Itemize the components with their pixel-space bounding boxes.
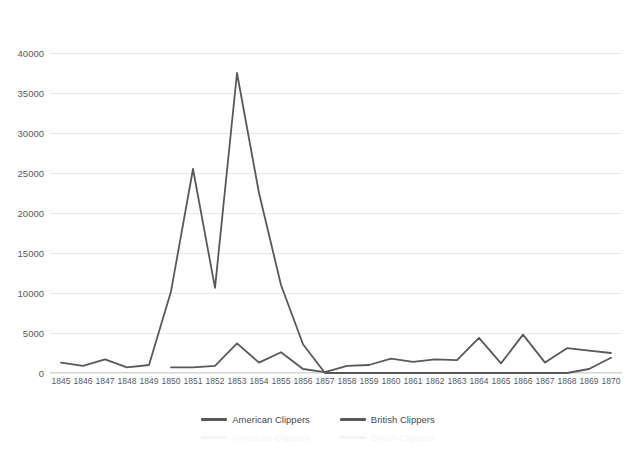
x-tick-label: 1853 <box>228 376 247 386</box>
legend-ghost-artifact: American Clippers British Clippers <box>0 432 636 443</box>
legend-item-british[interactable]: British Clippers <box>340 414 435 425</box>
series-line-british-clippers <box>171 335 611 373</box>
legend-label: American Clippers <box>232 432 310 443</box>
chart-legend: American Clippers British Clippers <box>0 414 636 425</box>
x-tick-label: 1862 <box>426 376 445 386</box>
legend-item-american[interactable]: American Clippers <box>201 414 310 425</box>
legend-ghost-item: American Clippers <box>201 432 310 443</box>
y-tick-label: 10000 <box>0 288 44 299</box>
legend-ghost-item: British Clippers <box>340 432 435 443</box>
x-tick-label: 1858 <box>338 376 357 386</box>
x-tick-label: 1869 <box>580 376 599 386</box>
y-tick-label: 35000 <box>0 88 44 99</box>
x-tick-label: 1865 <box>492 376 511 386</box>
x-tick-label: 1861 <box>404 376 423 386</box>
legend-swatch-icon <box>340 418 366 420</box>
x-tick-label: 1852 <box>206 376 225 386</box>
y-tick-label: 20000 <box>0 208 44 219</box>
legend-swatch-icon <box>201 436 227 438</box>
x-tick-label: 1847 <box>96 376 115 386</box>
x-tick-label: 1850 <box>162 376 181 386</box>
x-tick-label: 1857 <box>316 376 335 386</box>
series-lines <box>50 53 622 373</box>
y-tick-label: 5000 <box>0 328 44 339</box>
x-tick-label: 1867 <box>536 376 555 386</box>
x-tick-label: 1866 <box>514 376 533 386</box>
x-tick-label: 1860 <box>382 376 401 386</box>
x-tick-label: 1848 <box>118 376 137 386</box>
x-tick-label: 1855 <box>272 376 291 386</box>
y-tick-label: 30000 <box>0 128 44 139</box>
y-tick-label: 0 <box>0 368 44 379</box>
legend-swatch-icon <box>201 418 227 420</box>
y-tick-label: 25000 <box>0 168 44 179</box>
x-tick-label: 1856 <box>294 376 313 386</box>
x-tick-label: 1859 <box>360 376 379 386</box>
x-tick-label: 1846 <box>74 376 93 386</box>
x-tick-label: 1868 <box>558 376 577 386</box>
series-line-american-clippers <box>61 73 611 373</box>
y-tick-label: 15000 <box>0 248 44 259</box>
x-tick-label: 1845 <box>52 376 71 386</box>
plot-area <box>50 53 622 373</box>
legend-label: British Clippers <box>371 432 435 443</box>
x-axis: 1845184618471848184918501851185218531854… <box>50 376 622 392</box>
line-chart: 0500010000150002000025000300003500040000… <box>0 0 636 452</box>
x-tick-label: 1870 <box>602 376 621 386</box>
x-tick-label: 1863 <box>448 376 467 386</box>
x-tick-label: 1851 <box>184 376 203 386</box>
legend-swatch-icon <box>340 436 366 438</box>
legend-label: British Clippers <box>371 414 435 425</box>
x-tick-label: 1854 <box>250 376 269 386</box>
y-tick-label: 40000 <box>0 48 44 59</box>
legend-label: American Clippers <box>232 414 310 425</box>
x-tick-label: 1864 <box>470 376 489 386</box>
x-tick-label: 1849 <box>140 376 159 386</box>
